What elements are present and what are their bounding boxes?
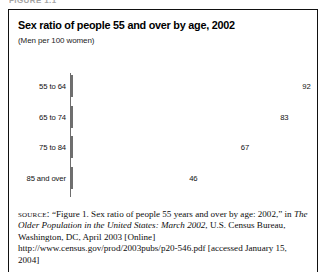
bar [71, 106, 73, 128]
bar-value-label: 83 [280, 112, 288, 121]
bar-chart-plot: 55 to 649265 to 748375 to 846785 and ove… [9, 73, 317, 199]
bar [71, 167, 73, 189]
source-label: source: [18, 208, 50, 219]
bar-row: 55 to 6492 [71, 75, 297, 97]
chart-subtitle: (Men per 100 women) [18, 36, 94, 45]
figure-inner: Sex ratio of people 55 and over by age, … [9, 10, 317, 272]
bar [71, 75, 73, 97]
bar [71, 136, 73, 158]
bar-category-label: 65 to 74 [39, 112, 66, 121]
bar-category-label: 85 and over [26, 173, 66, 182]
bar-row: 75 to 8467 [71, 136, 236, 158]
chart-title: Sex ratio of people 55 and over by age, … [18, 19, 235, 31]
source-note: source: “Figure 1. Sex ratio of people 5… [18, 208, 309, 266]
bar-row: 85 and over46 [71, 167, 184, 189]
bar-row: 65 to 7483 [71, 106, 275, 128]
figure-box: Sex ratio of people 55 and over by age, … [8, 9, 318, 272]
bar-category-label: 55 to 64 [39, 82, 66, 91]
bar-value-label: 92 [302, 82, 310, 91]
bar-value-label: 46 [189, 173, 197, 182]
figure-page: FIGURE 1.1 Sex ratio of people 55 and ov… [0, 0, 322, 272]
source-text-part1: “Figure 1. Sex ratio of people 55 years … [50, 209, 294, 219]
bar-category-label: 75 to 84 [39, 143, 66, 152]
bar-value-label: 67 [241, 143, 249, 152]
figure-caption-strip: FIGURE 1.1 [9, 0, 129, 4]
